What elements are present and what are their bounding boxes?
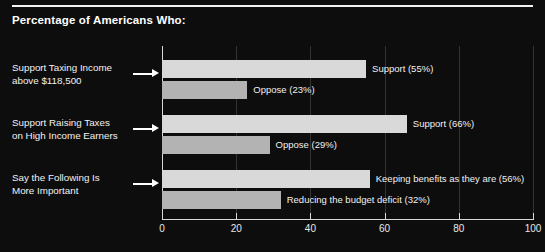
x-axis-tick bbox=[162, 213, 163, 219]
x-axis-tick bbox=[236, 213, 237, 219]
bar-value-label: Oppose (23%) bbox=[253, 81, 314, 99]
bar-value-label: Support (55%) bbox=[372, 60, 433, 78]
arrow-head bbox=[152, 179, 159, 187]
bar bbox=[162, 170, 370, 188]
bar-value-label: Reducing the budget deficit (32%) bbox=[287, 191, 430, 209]
x-axis-tick-label: 0 bbox=[159, 223, 165, 234]
category-label-line1: Support Raising Taxes bbox=[12, 116, 130, 129]
bar-value-label: Keeping benefits as they are (56%) bbox=[376, 170, 524, 188]
arrow-head bbox=[152, 69, 159, 77]
bar bbox=[162, 115, 407, 133]
bar-value-label: Oppose (29%) bbox=[276, 136, 337, 154]
category-label: Say the Following IsMore Important bbox=[12, 171, 130, 197]
x-axis-tick-label: 80 bbox=[453, 223, 464, 234]
x-axis-tick-label: 20 bbox=[231, 223, 242, 234]
bar bbox=[162, 81, 247, 99]
gridline bbox=[533, 46, 534, 219]
x-axis-tick bbox=[533, 213, 534, 219]
page-title: Percentage of Americans Who: bbox=[12, 14, 186, 26]
bar bbox=[162, 136, 270, 154]
x-axis-line bbox=[162, 219, 534, 220]
x-axis-tick bbox=[310, 213, 311, 219]
category-label: Support Raising Taxeson High Income Earn… bbox=[12, 116, 130, 142]
arrow-right-icon bbox=[133, 179, 159, 189]
x-axis-tick-label: 60 bbox=[379, 223, 390, 234]
bar-value-label: Support (66%) bbox=[413, 115, 474, 133]
arrow-shaft bbox=[133, 128, 154, 130]
arrow-shaft bbox=[133, 183, 154, 185]
category-label-line2: above $118,500 bbox=[12, 74, 130, 87]
x-axis-tick-label: 40 bbox=[305, 223, 316, 234]
arrow-right-icon bbox=[133, 124, 159, 134]
x-axis-tick bbox=[385, 213, 386, 219]
arrow-head bbox=[152, 124, 159, 132]
x-axis-tick-label: 100 bbox=[525, 223, 542, 234]
category-label-line1: Say the Following Is bbox=[12, 171, 130, 184]
bar bbox=[162, 191, 281, 209]
category-label-line2: More Important bbox=[12, 184, 130, 197]
category-label-line1: Support Taxing Income bbox=[12, 61, 130, 74]
bar bbox=[162, 60, 366, 78]
category-label: Support Taxing Incomeabove $118,500 bbox=[12, 61, 130, 87]
top-rule-divider bbox=[12, 5, 533, 7]
arrow-right-icon bbox=[133, 69, 159, 79]
arrow-shaft bbox=[133, 73, 154, 75]
chart-screenshot: Percentage of Americans Who: 02040608010… bbox=[0, 0, 545, 252]
x-axis-tick bbox=[459, 213, 460, 219]
category-label-line2: on High Income Earners bbox=[12, 129, 130, 142]
